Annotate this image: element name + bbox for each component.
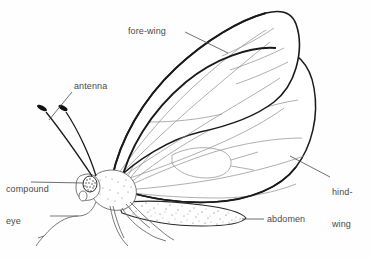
butterfly-anatomy-figure: fore-wing antenna compound eye hind- win… (0, 0, 371, 260)
label-antenna: antenna (74, 81, 107, 92)
label-fore-wing: fore-wing (128, 26, 166, 37)
abdomen-shape (118, 201, 246, 226)
butterfly-illustration (0, 0, 371, 260)
label-compound-eye-line2: eye (6, 216, 49, 227)
label-hind-wing-line1: hind- (332, 187, 353, 198)
antenna-clubs (36, 103, 68, 112)
label-hind-wing-line2: wing (332, 219, 353, 230)
label-hind-wing: hind- wing (332, 166, 353, 250)
antennae (46, 112, 96, 176)
label-compound-eye: compound eye (6, 163, 49, 247)
label-abdomen: abdomen (267, 214, 305, 225)
label-compound-eye-line1: compound (6, 184, 49, 195)
